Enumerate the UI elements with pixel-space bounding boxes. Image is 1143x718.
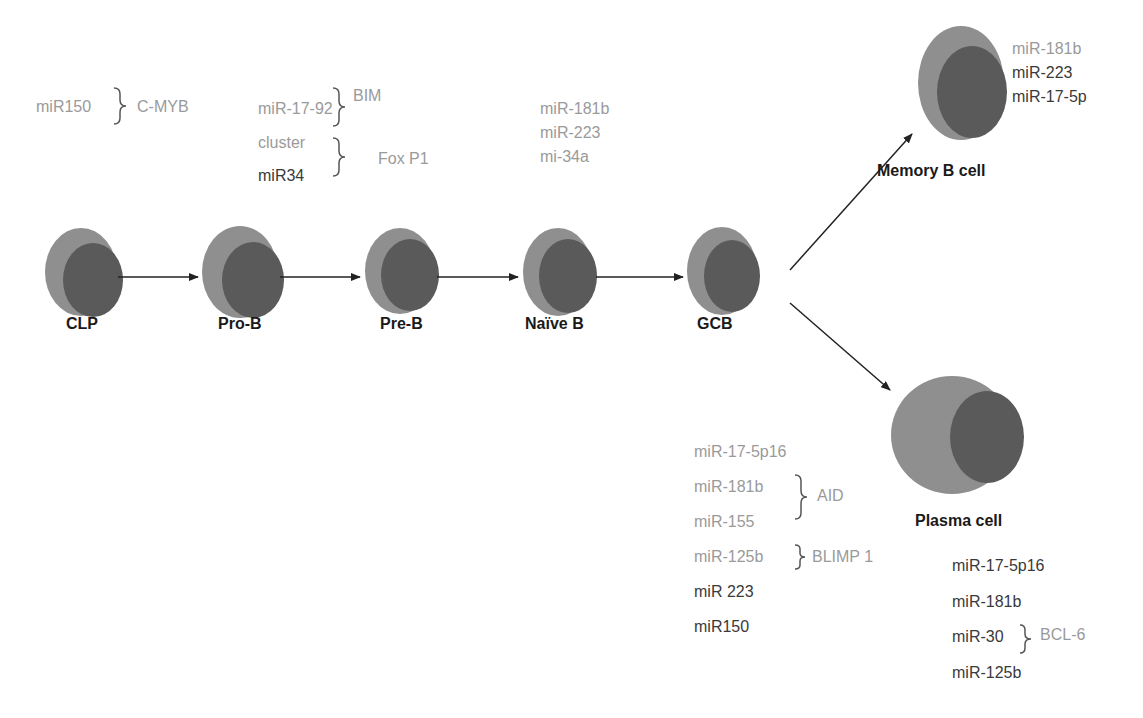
- gcb-target-aid: AID: [817, 487, 844, 505]
- cell-plasma-icon: [891, 376, 1024, 494]
- pro-b-target-foxp1: Fox P1: [378, 150, 429, 168]
- brace-blimp1-icon: [795, 545, 805, 569]
- plasma-target-bcl6: BCL-6: [1040, 626, 1085, 644]
- naive-b-mirna-223: miR-223: [540, 124, 600, 142]
- stage-label-clp: CLP: [66, 315, 98, 333]
- gcb-mirna-150: miR150: [694, 618, 749, 636]
- arrow-gcb-to-plasma: [790, 303, 890, 390]
- stage-label-pro-b: Pro-B: [218, 315, 262, 333]
- plasma-mirna-30: miR-30: [952, 628, 1004, 646]
- cell-memory-b-icon: [918, 26, 1007, 140]
- stage-label-gcb: GCB: [697, 315, 733, 333]
- cell-gcb-icon: [687, 227, 760, 315]
- stage-label-naive-b: Naïve B: [525, 315, 584, 333]
- cell-pre-b-icon: [365, 228, 439, 314]
- cell-naive-b-icon: [523, 228, 597, 316]
- brace-clp-icon: [114, 88, 126, 124]
- cell-pro-b-icon: [202, 226, 284, 318]
- plasma-mirna-17-5p16: miR-17-5p16: [952, 557, 1044, 575]
- plasma-mirna-181b: miR-181b: [952, 593, 1021, 611]
- pro-b-mirna-17-92: miR-17-92: [258, 100, 333, 118]
- gcb-mirna-223: miR 223: [694, 583, 754, 601]
- gcb-mirna-155: miR-155: [694, 513, 754, 531]
- gcb-mirna-125b: miR-125b: [694, 548, 763, 566]
- plasma-mirna-125b: miR-125b: [952, 664, 1021, 682]
- gcb-mirna-181b: miR-181b: [694, 478, 763, 496]
- brace-bim-icon: [333, 88, 345, 126]
- pro-b-mirna-cluster: cluster: [258, 134, 305, 152]
- stage-label-pre-b: Pre-B: [380, 315, 423, 333]
- clp-target: C-MYB: [137, 98, 189, 116]
- memory-b-mirna-17-5p: miR-17-5p: [1012, 88, 1087, 106]
- stage-label-memory-b: Memory B cell: [877, 162, 985, 180]
- memory-b-mirna-223: miR-223: [1012, 64, 1072, 82]
- gcb-mirna-17-5p16: miR-17-5p16: [694, 443, 786, 461]
- clp-mirna: miR150: [36, 98, 91, 116]
- arrow-gcb-to-memory-b: [790, 134, 912, 270]
- brace-foxp1-icon: [333, 138, 345, 176]
- brace-bcl6-icon: [1020, 625, 1031, 653]
- gcb-target-blimp1: BLIMP 1: [812, 548, 873, 566]
- cell-clp-icon: [45, 228, 123, 317]
- stage-label-plasma: Plasma cell: [915, 512, 1002, 530]
- brace-aid-icon: [795, 475, 807, 519]
- naive-b-mirna-34a: mi-34a: [540, 148, 589, 166]
- memory-b-mirna-181b: miR-181b: [1012, 40, 1081, 58]
- pro-b-target-bim: BIM: [353, 87, 381, 105]
- naive-b-mirna-181b: miR-181b: [540, 100, 609, 118]
- pro-b-mirna-34: miR34: [258, 167, 304, 185]
- b-cell-development-diagram: CLP Pro-B Pre-B Naïve B GCB Memory B cel…: [0, 0, 1143, 718]
